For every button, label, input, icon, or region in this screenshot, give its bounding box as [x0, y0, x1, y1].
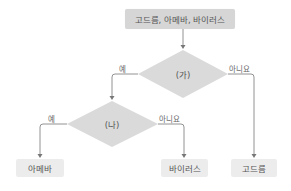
- leaf-virus-label: 바이러스: [169, 162, 201, 174]
- leaf-icicle-label: 고드름: [242, 162, 266, 174]
- decision-b-label: (나): [105, 118, 120, 130]
- start-node-label: 고드름, 아메바, 바이러스: [135, 13, 226, 25]
- connector-a-no: [228, 74, 254, 155]
- leaf-node-amoeba: 아메바: [16, 159, 64, 177]
- edge-b-no-label: 아니요: [159, 113, 180, 124]
- connector-b-yes: [40, 124, 67, 155]
- start-node: 고드름, 아메바, 바이러스: [125, 9, 235, 29]
- connector-a-yes: [112, 74, 138, 97]
- leaf-node-virus: 바이러스: [161, 159, 208, 177]
- arrowhead-icon: [110, 96, 115, 100]
- arrowhead-icon: [182, 154, 187, 158]
- arrowhead-icon: [181, 45, 186, 49]
- flowchart: 고드름, 아메바, 바이러스 (가) (나) 예 아니요 예 아니요 아메바 바…: [0, 0, 291, 191]
- arrowhead-icon: [252, 154, 257, 158]
- edge-a-no-label: 아니요: [229, 63, 250, 74]
- edge-b-yes-label: 예: [48, 113, 55, 124]
- leaf-amoeba-label: 아메바: [28, 162, 52, 174]
- edge-a-yes-label: 예: [119, 63, 126, 74]
- connector-b-no: [158, 124, 184, 155]
- arrowhead-icon: [38, 154, 43, 158]
- decision-a-label: (가): [176, 68, 191, 80]
- leaf-node-icicle: 고드름: [231, 159, 277, 177]
